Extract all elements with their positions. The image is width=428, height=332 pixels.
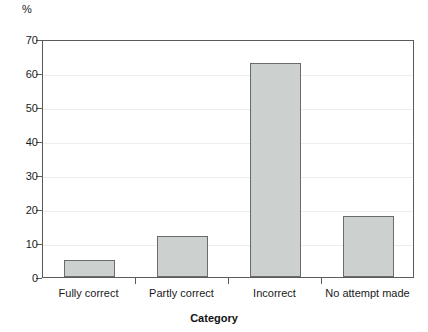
y-tick-label: 50	[0, 103, 38, 114]
bar[interactable]	[343, 216, 394, 277]
x-category-label: Incorrect	[228, 287, 321, 300]
plot-area	[42, 40, 414, 278]
y-tick-label: 0	[0, 273, 38, 284]
y-tick-label: 30	[0, 171, 38, 182]
x-category-label: No attempt made	[321, 287, 414, 300]
bar-slot	[43, 41, 136, 277]
y-tick-label: 70	[0, 35, 38, 46]
x-tick-mark	[321, 278, 322, 284]
bar-slot	[136, 41, 229, 277]
y-tick-label: 40	[0, 137, 38, 148]
y-tick-label: 20	[0, 205, 38, 216]
x-category-label: Partly correct	[135, 287, 228, 300]
y-axis-unit-label: %	[22, 3, 32, 15]
bar-slot	[229, 41, 322, 277]
bar-chart-figure: % 010203040506070 Fully correctPartly co…	[0, 0, 428, 332]
x-tick-mark	[228, 278, 229, 284]
bar-slot	[322, 41, 415, 277]
bar[interactable]	[64, 260, 115, 277]
bar[interactable]	[157, 236, 208, 277]
y-tick-label: 10	[0, 239, 38, 250]
bar[interactable]	[250, 63, 301, 277]
x-axis-title: Category	[0, 312, 428, 324]
y-tick-label: 60	[0, 69, 38, 80]
x-tick-mark	[135, 278, 136, 284]
x-category-label: Fully correct	[42, 287, 135, 300]
